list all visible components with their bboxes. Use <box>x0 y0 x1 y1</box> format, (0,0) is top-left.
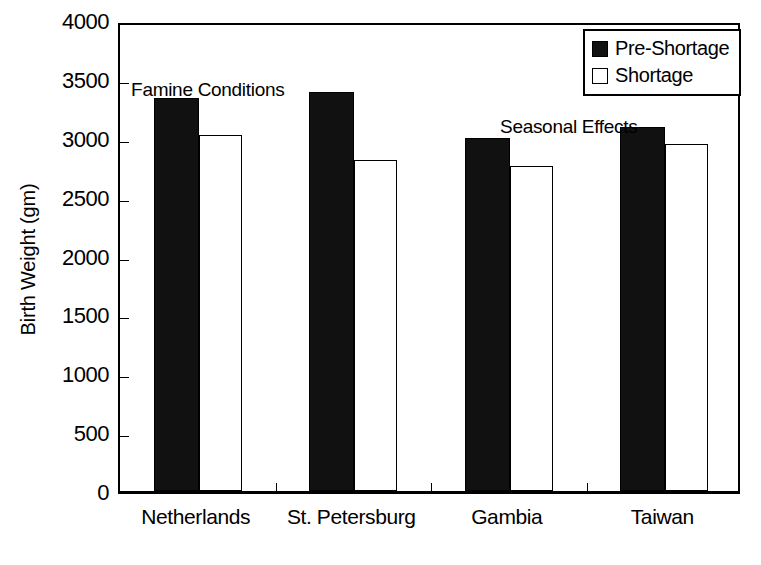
y-axis-tick-label: 4000 <box>23 11 109 33</box>
annotation-famine-conditions: Famine Conditions <box>98 80 318 100</box>
y-axis-tick <box>120 142 129 143</box>
y-axis-tick <box>120 318 129 319</box>
bar-pre-shortage <box>620 127 665 491</box>
y-axis-tick <box>120 260 129 261</box>
y-axis-tick-label: 1500 <box>23 305 109 327</box>
hollow-square-icon <box>592 68 608 84</box>
bar-chart: Birth Weight (gm) 0500100015002000250030… <box>0 0 761 565</box>
x-axis-tick <box>276 483 277 491</box>
y-axis-tick <box>120 377 129 378</box>
bar-shortage <box>199 135 242 491</box>
y-axis-tick-label: 3500 <box>23 70 109 92</box>
y-axis-tick <box>120 436 129 437</box>
legend-entry-shortage: Shortage <box>592 62 729 89</box>
bar-shortage <box>510 166 553 491</box>
y-axis-tick-label: 3000 <box>23 129 109 151</box>
filled-square-icon <box>592 41 608 57</box>
bar-shortage <box>354 160 397 491</box>
y-axis-tick-label: 2500 <box>23 188 109 210</box>
legend-label-shortage: Shortage <box>615 65 693 86</box>
bar-pre-shortage <box>465 138 510 491</box>
y-axis-tick <box>120 201 129 202</box>
bar-pre-shortage <box>154 98 199 491</box>
annotation-seasonal-effects: Seasonal Effects <box>459 117 679 137</box>
y-axis-tick-label: 1000 <box>23 364 109 386</box>
x-axis-tick <box>431 483 432 491</box>
y-axis-tick-label: 500 <box>23 423 109 445</box>
x-axis-tick <box>587 483 588 491</box>
x-axis-tick-label: Taiwan <box>552 505 761 528</box>
bar-shortage <box>665 144 708 491</box>
legend-entry-pre-shortage: Pre-Shortage <box>592 35 729 62</box>
legend: Pre-Shortage Shortage <box>583 29 741 96</box>
bar-pre-shortage <box>309 92 354 491</box>
y-axis-tick-label: 0 <box>23 482 109 504</box>
y-axis-tick-label: 2000 <box>23 247 109 269</box>
legend-label-pre-shortage: Pre-Shortage <box>615 38 729 59</box>
